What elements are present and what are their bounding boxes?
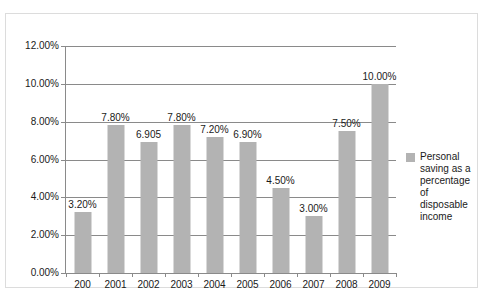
x-axis-tick-label: 2003	[170, 279, 192, 290]
bar-group: 6.90%2005	[231, 46, 264, 273]
y-axis-tick-label: 6.00%	[31, 155, 59, 165]
x-axis-tick-label: 200	[74, 279, 91, 290]
x-axis-tick	[99, 273, 100, 277]
y-axis-tick-label: 8.00%	[31, 117, 59, 127]
y-axis-tick-label: 2.00%	[31, 230, 59, 240]
bar	[206, 137, 223, 273]
bar	[74, 212, 91, 273]
chart-figure-frame: 0.00%2.00%4.00%6.00%8.00%10.00%12.00% 3.…	[5, 13, 478, 288]
bar-value-label: 6.90%	[233, 129, 261, 140]
x-axis-tick-label: 2005	[236, 279, 258, 290]
bar-group: 3.00%2007	[297, 46, 330, 273]
bar-value-label: 7.50%	[332, 118, 360, 129]
y-axis-tick-label: 10.00%	[25, 79, 59, 89]
x-axis-tick-label: 2001	[104, 279, 126, 290]
x-axis-tick	[198, 273, 199, 277]
bar-group: 7.50%2008	[330, 46, 363, 273]
x-axis-tick-label: 2004	[203, 279, 225, 290]
x-axis-tick	[264, 273, 265, 277]
x-axis-tick-label: 2008	[335, 279, 357, 290]
y-axis-tick-label: 12.00%	[25, 41, 59, 51]
bar-group: 7.80%2003	[165, 46, 198, 273]
x-axis-tick	[66, 273, 67, 277]
bar-value-label: 7.20%	[200, 124, 228, 135]
bar-group: 6.9052002	[132, 46, 165, 273]
bar-group: 3.20%200	[66, 46, 99, 273]
x-axis-tick-label: 2002	[137, 279, 159, 290]
bar-value-label: 10.00%	[363, 71, 397, 82]
bar-value-label: 7.80%	[167, 112, 195, 123]
bar-value-label: 4.50%	[266, 175, 294, 186]
legend-label: Personal saving as a percentage of dispo…	[420, 151, 478, 223]
x-axis-tick	[231, 273, 232, 277]
bar	[338, 131, 355, 273]
x-axis-tick	[132, 273, 133, 277]
bar-group: 7.20%2004	[198, 46, 231, 273]
x-axis-tick	[363, 273, 364, 277]
y-axis-tick-label: 4.00%	[31, 192, 59, 202]
bar-value-label: 7.80%	[101, 112, 129, 123]
x-axis-tick-label: 2007	[302, 279, 324, 290]
x-axis-tick	[330, 273, 331, 277]
bar	[239, 142, 256, 273]
plot-area: 0.00%2.00%4.00%6.00%8.00%10.00%12.00% 3.…	[65, 46, 396, 274]
legend-swatch-icon	[406, 153, 415, 162]
y-axis-tick-label: 0.00%	[31, 268, 59, 278]
bar-group: 4.50%2006	[264, 46, 297, 273]
bar	[305, 216, 322, 273]
chart-legend: Personal saving as a percentage of dispo…	[406, 151, 478, 223]
bar-group: 10.00%2009	[363, 46, 396, 273]
x-axis-tick-label: 2006	[269, 279, 291, 290]
bar-value-label: 6.905	[136, 129, 161, 140]
x-axis-tick	[165, 273, 166, 277]
bar	[371, 84, 388, 273]
x-axis-tick	[297, 273, 298, 277]
bar	[173, 125, 190, 273]
bar-group: 7.80%2001	[99, 46, 132, 273]
x-axis-tick-label: 2009	[368, 279, 390, 290]
bar-value-label: 3.00%	[299, 203, 327, 214]
bar	[140, 142, 157, 273]
x-axis-tick	[396, 273, 397, 277]
bar-value-label: 3.20%	[68, 199, 96, 210]
bar	[107, 125, 124, 273]
bar	[272, 188, 289, 273]
